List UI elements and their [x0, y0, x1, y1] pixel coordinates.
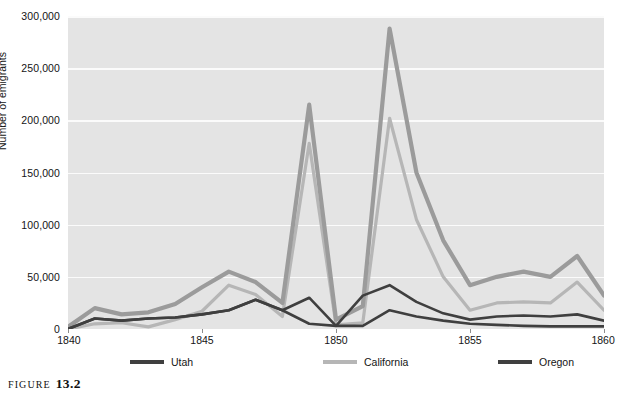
legend-label-california: California [364, 356, 408, 368]
x-tick-label: 1850 [324, 334, 347, 346]
x-tick-label: 1860 [591, 334, 614, 346]
x-tick-mark [604, 329, 605, 333]
y-tick-label: 100,000 [21, 219, 60, 231]
y-tick-label: 300,000 [21, 10, 60, 22]
legend-swatch-california [323, 360, 357, 363]
figure-13-2: 050,000100,000150,000200,000250,000300,0… [0, 0, 622, 394]
x-tick-mark [470, 329, 471, 333]
y-tick-label: 150,000 [21, 167, 60, 179]
x-tick-mark [336, 329, 337, 333]
legend-label-utah: Utah [171, 356, 193, 368]
x-tick-mark [202, 329, 203, 333]
series-lines [68, 16, 604, 329]
figure-caption-word: FIGURE [8, 379, 51, 390]
y-tick-label: 50,000 [27, 271, 60, 283]
chart-plot-area [68, 16, 604, 329]
figure-caption-number: 13.2 [56, 376, 81, 391]
legend-swatch-oregon [498, 360, 532, 363]
y-axis-tick-labels: 050,000100,000150,000200,000250,000300,0… [0, 16, 64, 329]
legend-label-oregon: Oregon [539, 356, 574, 368]
x-tick-label: 1840 [57, 334, 80, 346]
x-axis-tick-labels: 18401845185018551860 [68, 329, 604, 351]
y-tick-label: 200,000 [21, 114, 60, 126]
legend-item-california: California [323, 356, 408, 368]
series-line-total [68, 29, 604, 327]
figure-caption: FIGURE13.2 [8, 374, 81, 392]
chart-legend: UtahCaliforniaOregonTotal [68, 356, 608, 372]
x-tick-label: 1845 [190, 334, 213, 346]
legend-swatch-utah [130, 360, 164, 363]
x-tick-mark [68, 329, 69, 333]
legend-item-utah: Utah [130, 356, 193, 368]
series-line-california [68, 118, 604, 329]
x-tick-label: 1855 [458, 334, 481, 346]
y-tick-label: 250,000 [21, 62, 60, 74]
legend-item-oregon: Oregon [498, 356, 574, 368]
y-axis-title: Number of emigrants [0, 52, 8, 150]
